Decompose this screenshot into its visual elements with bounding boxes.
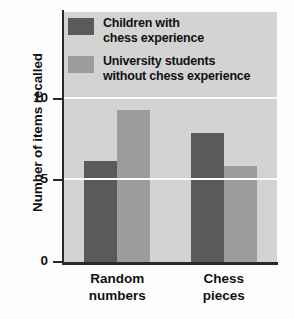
legend-label-children: Children with chess experience [103,16,204,45]
gridline-10 [64,97,277,99]
bar-children-chess-pieces [191,133,224,262]
y-tick-mark-5 [53,179,63,181]
legend: Children with chess experience Universit… [68,16,250,92]
y-tick-label-10: 10 [8,90,48,105]
x-category-label-chess-pieces: Chess pieces [169,270,279,304]
y-tick-mark-0 [53,261,63,263]
gridline-5 [64,178,277,180]
legend-item-children: Children with chess experience [68,16,250,45]
bar-students-random-numbers [117,110,150,262]
legend-swatch-students [68,56,94,73]
legend-label-students: University students without chess experi… [103,54,250,83]
x-axis-line [62,262,278,265]
x-category-label-random-numbers: Random numbers [62,270,172,304]
bar-children-random-numbers [84,161,117,262]
bar-chart-figure: Number of items recalled 0 5 10 Children… [0,0,294,319]
y-axis-title: Number of items recalled [30,18,45,248]
y-tick-label-0: 0 [8,253,48,268]
y-tick-label-5: 5 [8,171,48,186]
legend-swatch-children [68,18,94,35]
plot-area: Children with chess experience Universit… [64,12,277,262]
legend-item-students: University students without chess experi… [68,54,250,83]
y-tick-mark-10 [53,98,63,100]
